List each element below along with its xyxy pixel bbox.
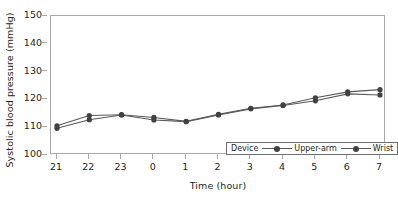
legend-title: Device [231, 144, 258, 153]
x-axis-tick-label: 23 [109, 162, 133, 172]
data-point-marker [54, 126, 59, 131]
data-point-marker [281, 103, 286, 108]
legend-entry-upper-arm[interactable]: Upper-arm [262, 144, 336, 153]
x-axis-tick-label: 0 [141, 162, 165, 172]
legend-label-upper-arm: Upper-arm [294, 144, 336, 153]
series-line-wrist [57, 94, 380, 128]
x-axis-tick-label: 2 [206, 162, 230, 172]
legend[interactable]: Device Upper-arm Wrist [226, 142, 398, 155]
data-point-marker [377, 92, 382, 97]
data-point-marker [345, 91, 350, 96]
legend-label-wrist: Wrist [373, 144, 393, 153]
x-axis-tick-label: 3 [238, 162, 262, 172]
x-axis-tick-label: 4 [270, 162, 294, 172]
legend-marker-icon [341, 144, 371, 153]
x-axis-title: Time (hour) [50, 180, 386, 191]
legend-marker-icon [262, 144, 292, 153]
x-axis-tick-label: 22 [76, 162, 100, 172]
data-point-marker [248, 106, 253, 111]
x-axis-tick-label: 21 [44, 162, 68, 172]
data-point-marker [184, 119, 189, 124]
data-point-marker [87, 117, 92, 122]
plot-series-svg [51, 16, 386, 155]
x-axis-tick-label: 1 [173, 162, 197, 172]
x-axis-tick-label: 7 [367, 162, 391, 172]
x-axis-tick-label: 6 [335, 162, 359, 172]
data-point-marker [216, 112, 221, 117]
x-axis-tick-label: 5 [302, 162, 326, 172]
data-point-marker [151, 117, 156, 122]
data-point-marker [119, 112, 124, 117]
plot-area [50, 15, 385, 154]
legend-entry-wrist[interactable]: Wrist [341, 144, 393, 153]
data-point-marker [377, 87, 382, 92]
series-line-upper-arm [57, 90, 380, 126]
data-point-marker [313, 98, 318, 103]
